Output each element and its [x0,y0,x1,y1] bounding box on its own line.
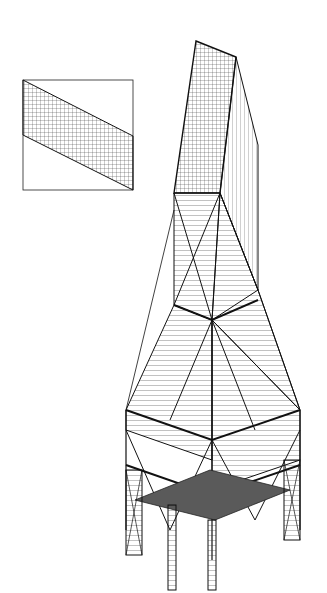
base-platform [135,470,290,520]
tower-drawing [0,0,327,593]
inset-diagram [23,80,133,190]
